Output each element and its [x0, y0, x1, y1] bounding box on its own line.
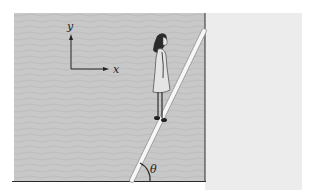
inclined-plank-diagram: y x θ [0, 0, 313, 195]
y-axis-label: y [66, 20, 74, 33]
angle-theta-label: θ [150, 163, 157, 176]
x-axis-label: x [113, 63, 120, 76]
background-region [205, 13, 302, 190]
wall-panel [14, 13, 205, 181]
